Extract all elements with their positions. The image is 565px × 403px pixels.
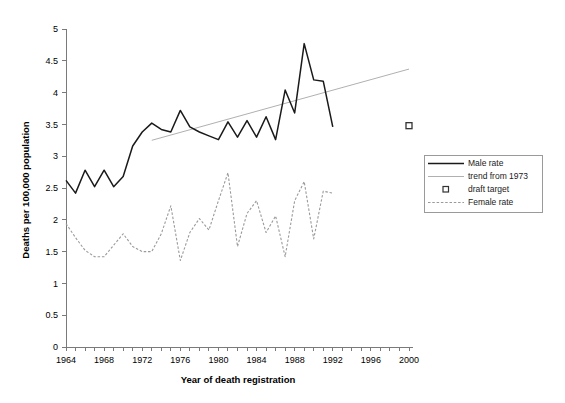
y-tick-label: 1 xyxy=(53,279,58,289)
series-line-male-rate xyxy=(66,44,333,193)
legend-item-label: trend from 1973 xyxy=(468,171,528,181)
y-tick-label: 4.5 xyxy=(45,56,58,66)
x-tick-label: 2000 xyxy=(399,355,419,365)
y-tick-label: 0.5 xyxy=(45,310,58,320)
x-axis-title: Year of death registration xyxy=(181,374,296,385)
legend-item-label: Female rate xyxy=(468,197,514,207)
y-tick-label: 2 xyxy=(53,215,58,225)
x-tick-label: 1964 xyxy=(56,355,76,365)
y-tick-label: 2.5 xyxy=(45,183,58,193)
legend-item-label: draft target xyxy=(468,184,510,194)
x-tick-label: 1992 xyxy=(323,355,343,365)
x-axis: 1964196819721976198019841988199219962000 xyxy=(56,347,419,365)
x-tick-label: 1984 xyxy=(247,355,267,365)
x-tick-label: 1980 xyxy=(208,355,228,365)
draft-target-marker xyxy=(406,123,412,129)
y-axis-title: Deaths per 100,000 population xyxy=(20,121,31,258)
y-axis: 00.511.522.533.544.55 xyxy=(45,24,66,352)
line-chart-svg: 00.511.522.533.544.55 196419681972197619… xyxy=(0,0,565,403)
series-line-female-rate xyxy=(66,173,333,261)
chart-legend: Male ratetrend from 1973draft targetFema… xyxy=(424,155,542,212)
x-tick-label: 1988 xyxy=(285,355,305,365)
chart-container: 00.511.522.533.544.55 196419681972197619… xyxy=(0,0,565,403)
y-tick-label: 3.5 xyxy=(45,120,58,130)
y-tick-label: 5 xyxy=(53,24,58,34)
y-tick-label: 1.5 xyxy=(45,247,58,257)
x-tick-label: 1996 xyxy=(361,355,381,365)
y-tick-label: 4 xyxy=(53,88,58,98)
legend-item-label: Male rate xyxy=(468,158,504,168)
series-line-trend-from-1973 xyxy=(152,69,409,140)
x-tick-label: 1968 xyxy=(94,355,114,365)
x-tick-label: 1976 xyxy=(170,355,190,365)
y-tick-label: 3 xyxy=(53,151,58,161)
legend-open-square-icon xyxy=(443,187,449,193)
x-tick-label: 1972 xyxy=(132,355,152,365)
y-tick-label: 0 xyxy=(53,342,58,352)
